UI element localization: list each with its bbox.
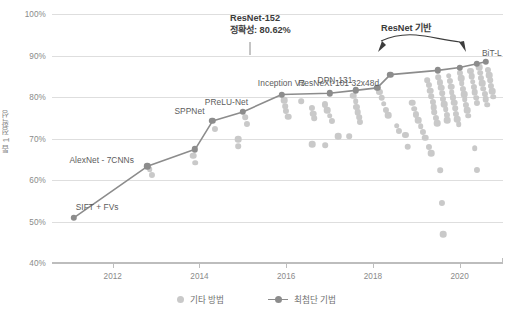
y-axis-tick-label-80: 80% [29, 93, 46, 102]
legend-item-other-methods[interactable]: 기타 방법 [177, 293, 224, 305]
gridline-40 [52, 263, 503, 264]
annotation-resnet-based-label: ResNet 기반 [381, 22, 431, 34]
point-label: BiT-L [482, 48, 502, 58]
x-axis-tick-label-2020: 2020 [451, 272, 469, 281]
point-label: AlexNet - 7CNNs [69, 155, 134, 165]
x-axis-tick-2016 [286, 263, 287, 268]
y-axis-tick-label-70: 70% [29, 134, 46, 143]
annotation-resnet152-line2: 정확성: 80.62% [230, 24, 291, 36]
x-axis-tick-2018 [373, 263, 374, 268]
y-axis-title: 톱 1 정확성 [1, 110, 13, 153]
y-axis-tick-label-40: 40% [29, 259, 46, 268]
x-axis-end-tick [502, 258, 503, 263]
x-axis-tick-label-2016: 2016 [277, 272, 295, 281]
chart-container: 톱 1 정확성 100%90%80%70%60%50%40% SIFT + FV… [0, 0, 513, 313]
legend-item-sota-label: 최첨단 기법 [294, 293, 336, 305]
x-axis-tick-label-2012: 2012 [104, 272, 122, 281]
point-label: PReLU-Net [205, 97, 248, 107]
x-axis-tick-2020 [460, 263, 461, 268]
line-marker-icon [268, 296, 288, 303]
plot-area: 100%90%80%70%60%50%40% SIFT + FVsAlexNet… [52, 14, 503, 263]
annotation-resnet152-line1: ResNet-152 [230, 12, 291, 24]
annotation-resnet-based: ResNet 기반 [381, 22, 431, 34]
x-axis-tick-label-2014: 2014 [190, 272, 208, 281]
x-axis-tick-2014 [199, 263, 200, 268]
x-axis-line [52, 262, 503, 263]
x-axis-tick-2012 [113, 263, 114, 268]
y-axis-tick-label-60: 60% [29, 176, 46, 185]
y-axis-tick-label-90: 90% [29, 51, 46, 60]
y-axis-tick-label-100: 100% [25, 10, 46, 19]
circle-marker-icon [177, 296, 184, 303]
annotation-resnet152: ResNet-152 정확성: 80.62% [230, 12, 291, 37]
y-axis-tick-label-50: 50% [29, 217, 46, 226]
sota-trend-line [52, 14, 503, 263]
legend-item-other-methods-label: 기타 방법 [190, 293, 224, 305]
point-label: ResNeXt-101 32x48d [298, 78, 379, 88]
point-label: SPPNet [174, 106, 204, 116]
x-axis-tick-label-2018: 2018 [364, 272, 382, 281]
chart-legend: 기타 방법 최첨단 기법 [0, 293, 513, 305]
legend-item-sota[interactable]: 최첨단 기법 [268, 293, 336, 305]
point-label: SIFT + FVs [76, 202, 119, 212]
